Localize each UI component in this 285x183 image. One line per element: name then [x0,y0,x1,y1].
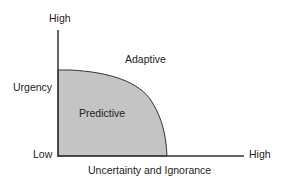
adaptive-label: Adaptive [125,53,166,65]
x-axis-high-label: High [249,148,271,160]
x-axis-label: Uncertainty and Ignorance [88,164,211,176]
diagram: High Urgency Low High Uncertainty and Ig… [0,0,285,183]
y-axis-label: Urgency [13,81,52,93]
predictive-label: Predictive [79,107,125,119]
y-axis-high-label: High [49,12,71,24]
y-axis-low-label: Low [33,148,52,160]
